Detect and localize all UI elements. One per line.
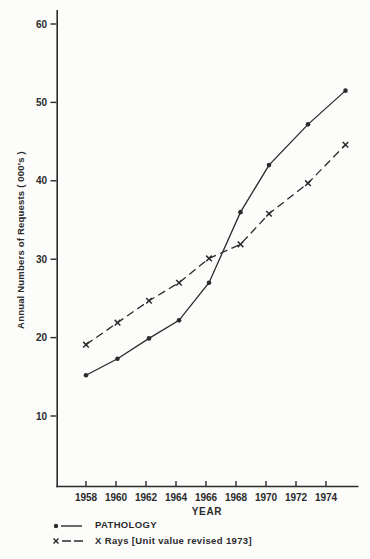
x-rays-point bbox=[266, 211, 272, 217]
legend-label-pathology: PATHOLOGY bbox=[95, 519, 157, 530]
legend-item-x-rays: X Rays [Unit value revised 1973] bbox=[52, 533, 252, 549]
x-dashed-line-icon bbox=[52, 534, 88, 546]
x-rays-point bbox=[146, 298, 152, 304]
pathology-line bbox=[86, 91, 346, 376]
pathology-point bbox=[177, 318, 182, 323]
pathology-series bbox=[84, 88, 348, 377]
scanned-line-chart-page: 1020304050601958196019621964196619681970… bbox=[0, 0, 370, 559]
x-rays-point bbox=[83, 342, 89, 348]
pathology-point bbox=[267, 163, 272, 168]
y-tick-label: 10 bbox=[36, 411, 48, 422]
x-rays-point bbox=[206, 256, 212, 262]
x-tick-label: 1962 bbox=[135, 492, 158, 503]
pathology-point bbox=[343, 88, 348, 93]
y-tick-label: 20 bbox=[36, 332, 48, 343]
x-rays-series bbox=[83, 142, 348, 348]
x-tick-label: 1960 bbox=[105, 492, 128, 503]
x-tick-label: 1958 bbox=[75, 492, 98, 503]
legend-label-x-rays: X Rays [Unit value revised 1973] bbox=[95, 535, 252, 546]
x-tick-label: 1968 bbox=[225, 492, 248, 503]
y-tick-label: 50 bbox=[36, 97, 48, 108]
pathology-point bbox=[306, 122, 311, 127]
pathology-point bbox=[147, 336, 152, 341]
pathology-point bbox=[207, 280, 212, 285]
x-rays-point bbox=[176, 280, 182, 286]
axes: 1020304050601958196019621964196619681970… bbox=[36, 10, 359, 503]
y-tick-label: 30 bbox=[36, 254, 48, 265]
dot-solid-line-icon bbox=[52, 519, 88, 531]
pathology-point bbox=[238, 210, 243, 215]
x-tick-label: 1966 bbox=[195, 492, 218, 503]
x-tick-label: 1970 bbox=[255, 492, 278, 503]
x-rays-point bbox=[238, 242, 244, 248]
x-rays-point bbox=[343, 142, 349, 148]
x-axis-title: YEAR bbox=[192, 506, 223, 517]
y-tick-label: 40 bbox=[36, 175, 48, 186]
pathology-point bbox=[84, 373, 89, 378]
y-tick-label: 60 bbox=[36, 19, 48, 30]
x-rays-line bbox=[86, 145, 346, 345]
legend-item-pathology: PATHOLOGY bbox=[52, 517, 252, 533]
x-rays-point bbox=[305, 180, 311, 186]
legend: PATHOLOGY X Rays [Unit value revised 197… bbox=[52, 517, 252, 548]
pathology-point bbox=[115, 356, 120, 361]
y-axis-title: Annual Numbers of Requests ( 000's ) bbox=[15, 151, 26, 329]
line-chart-canvas: 1020304050601958196019621964196619681970… bbox=[0, 0, 370, 559]
x-tick-label: 1974 bbox=[315, 492, 338, 503]
x-tick-label: 1964 bbox=[165, 492, 188, 503]
x-tick-label: 1972 bbox=[285, 492, 308, 503]
x-rays-point bbox=[115, 320, 121, 326]
